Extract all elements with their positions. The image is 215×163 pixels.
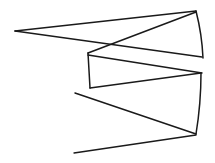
canvas-background xyxy=(0,0,215,163)
zigzag-polyline-figure xyxy=(0,0,215,163)
drawing-canvas xyxy=(0,0,215,163)
